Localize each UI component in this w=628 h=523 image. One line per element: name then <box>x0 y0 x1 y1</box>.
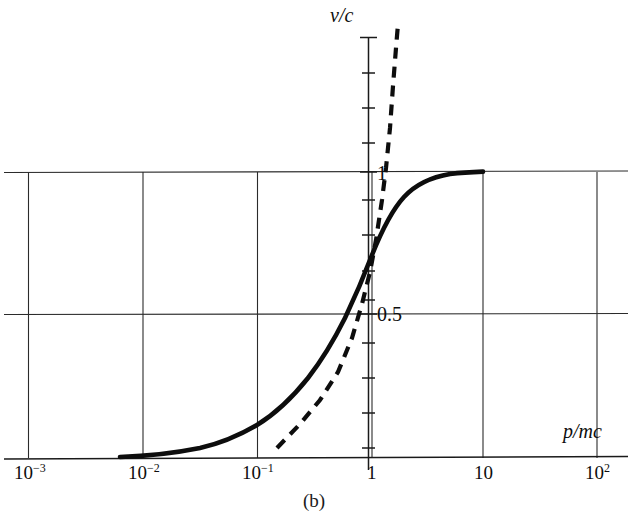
horizontal-gridlines <box>4 171 628 315</box>
figure-caption: (b) <box>0 490 628 512</box>
y-tick-label-1: 1 <box>377 163 387 183</box>
x-tick-label-1e-2: 10−2 <box>128 463 160 482</box>
figure-panel-b: 10−3 10−2 10−1 1 10 102 1 0.5 p/mc v/c (… <box>0 0 628 523</box>
x-tick-label-1e-1: 10−1 <box>242 463 274 482</box>
x-axis-line <box>4 457 628 460</box>
y-tick-label-0_5: 0.5 <box>377 304 402 324</box>
x-tick-label-10: 10 <box>474 463 493 482</box>
x-axis-title: p/mc <box>563 421 602 441</box>
x-tick-label-1: 1 <box>367 463 377 482</box>
x-tick-label-1e-3: 10−3 <box>14 463 46 482</box>
y-axis-title: v/c <box>330 5 353 25</box>
gridline-y-1 <box>4 171 628 173</box>
vertical-gridlines <box>29 172 598 458</box>
chart-canvas <box>0 0 628 523</box>
x-tick-label-1e2: 102 <box>585 463 610 482</box>
gridline-y-0_5 <box>4 314 628 315</box>
